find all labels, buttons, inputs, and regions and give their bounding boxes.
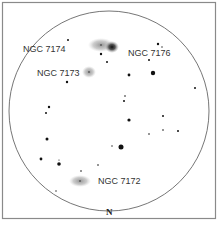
- galaxy-label: NGC 7172: [98, 176, 141, 186]
- galaxy-nucleus: [88, 71, 90, 73]
- star: [119, 145, 124, 150]
- star: [100, 53, 102, 55]
- star: [177, 130, 179, 132]
- star: [58, 159, 59, 160]
- galaxy-nucleus: [79, 180, 81, 182]
- chart-frame: [3, 3, 216, 219]
- star: [46, 138, 49, 141]
- galaxy-label: NGC 7176: [128, 48, 171, 58]
- star: [67, 39, 69, 41]
- star: [106, 61, 108, 63]
- star: [111, 145, 112, 146]
- star: [151, 71, 155, 75]
- star: [80, 170, 82, 172]
- star: [66, 81, 68, 83]
- star: [148, 59, 150, 61]
- star: [45, 112, 47, 114]
- galaxy-label: NGC 7174: [23, 44, 66, 54]
- star: [123, 100, 125, 102]
- star: [194, 87, 196, 89]
- star: [40, 158, 43, 161]
- star: [148, 133, 150, 135]
- star: [48, 106, 50, 108]
- star: [124, 95, 126, 97]
- galaxy-nucleus: [100, 44, 102, 46]
- star: [128, 74, 131, 77]
- star: [55, 190, 56, 191]
- galaxy-ngc-7176: [105, 41, 119, 53]
- star: [97, 164, 99, 166]
- star: [162, 129, 164, 131]
- north-label: N: [106, 207, 113, 217]
- star: [162, 115, 164, 117]
- star: [157, 43, 159, 45]
- galaxy-label: NGC 7173: [37, 68, 80, 78]
- star: [57, 162, 61, 166]
- star: [127, 118, 130, 121]
- finder-chart: NGC 7174NGC 7176NGC 7173NGC 7172 N: [0, 0, 219, 226]
